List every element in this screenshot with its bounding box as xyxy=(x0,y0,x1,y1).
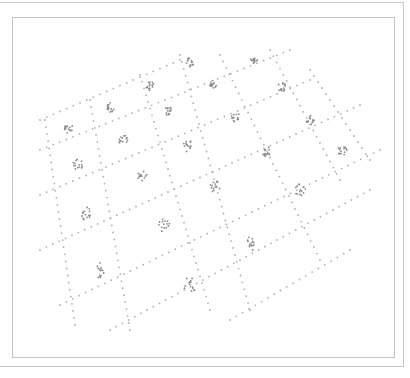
cluster xyxy=(231,113,240,122)
cluster xyxy=(186,58,194,68)
cluster xyxy=(158,219,170,233)
cluster xyxy=(210,181,221,193)
cluster xyxy=(165,107,172,116)
cluster xyxy=(278,82,286,92)
cluster xyxy=(146,81,155,91)
cluster xyxy=(338,146,348,155)
cluster xyxy=(184,278,196,292)
cluster xyxy=(72,158,83,170)
cluster xyxy=(81,207,91,221)
cluster xyxy=(209,80,217,89)
dotted-grid xyxy=(39,49,381,331)
cluster xyxy=(64,125,73,134)
cluster xyxy=(106,102,114,113)
scatter-plot xyxy=(0,0,410,378)
cluster xyxy=(247,236,255,251)
cluster xyxy=(96,262,104,278)
cluster xyxy=(119,135,129,144)
cluster xyxy=(183,140,192,152)
cluster xyxy=(137,171,147,182)
